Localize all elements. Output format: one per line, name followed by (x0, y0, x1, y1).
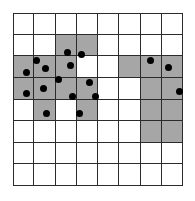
grid-cell (118, 163, 140, 186)
data-point (40, 85, 47, 92)
shaded-cell (118, 55, 140, 78)
data-point (64, 49, 71, 56)
grid-cell (33, 34, 55, 57)
data-point (23, 69, 30, 76)
grid-cell (161, 34, 183, 57)
grid-cell (76, 13, 98, 35)
data-point (76, 110, 83, 117)
data-point (69, 93, 76, 100)
grid-cell (33, 142, 55, 165)
grid-cell (97, 99, 119, 122)
grid-cell (97, 13, 119, 35)
grid-cell (118, 99, 140, 122)
data-point (176, 88, 183, 95)
grid-cell (140, 142, 162, 165)
grid-cell (33, 163, 55, 186)
grid-cell (55, 163, 77, 186)
grid-cell (13, 142, 34, 165)
grid-cell (97, 55, 119, 78)
grid-cell (97, 120, 119, 143)
grid-cell (118, 142, 140, 165)
grid-cell (161, 163, 183, 186)
shaded-cell (140, 120, 162, 143)
grid-cell (55, 120, 77, 143)
data-point (23, 90, 30, 97)
grid-cell (33, 13, 55, 35)
grid-cell (97, 163, 119, 186)
grid-cell (76, 142, 98, 165)
shaded-cell (161, 99, 183, 122)
grid-cell (76, 163, 98, 186)
grid-cell (161, 13, 183, 35)
data-point (78, 51, 85, 58)
data-point (42, 65, 49, 72)
grid-cell (13, 99, 34, 122)
grid-cell (55, 142, 77, 165)
grid-cell (161, 142, 183, 165)
grid-cell (118, 120, 140, 143)
grid-cell (118, 34, 140, 57)
data-point (92, 93, 99, 100)
grid-cell (13, 34, 34, 57)
grid-cell (97, 34, 119, 57)
data-point (86, 79, 93, 86)
grid-cell (118, 13, 140, 35)
grid-cell (13, 13, 34, 35)
grid-cell (13, 120, 34, 143)
grid-cell (97, 77, 119, 100)
data-point (33, 57, 40, 64)
grid-cell (55, 13, 77, 35)
grid (13, 13, 183, 186)
shaded-cell (140, 99, 162, 122)
grid-cell (118, 77, 140, 100)
grid-cell (140, 163, 162, 186)
data-point (147, 57, 154, 64)
data-point (55, 76, 62, 83)
grid-cell (55, 99, 77, 122)
shaded-cell (161, 120, 183, 143)
data-point (165, 64, 172, 71)
grid-cell (33, 120, 55, 143)
grid-cell (140, 34, 162, 57)
grid-cell (76, 120, 98, 143)
data-point (43, 110, 50, 117)
grid-cell (97, 142, 119, 165)
grid-cell (76, 55, 98, 78)
shaded-cell (140, 77, 162, 100)
data-point (67, 62, 74, 69)
grid-cell (140, 13, 162, 35)
grid-cell (13, 163, 34, 186)
